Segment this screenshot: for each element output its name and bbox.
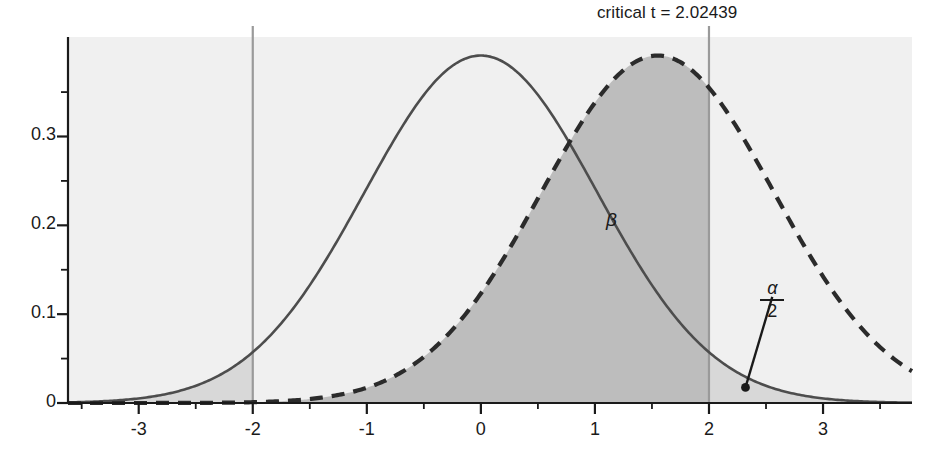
- beta-annotation: β: [606, 209, 617, 231]
- x-tick-label: 0: [461, 419, 501, 440]
- y-tick-label: 0.1: [2, 302, 56, 323]
- x-tick-label: 3: [803, 419, 843, 440]
- y-tick-label: 0: [2, 391, 56, 412]
- x-tick-label: -2: [233, 419, 273, 440]
- x-tick-label: -3: [119, 419, 159, 440]
- y-tick-label: 0.3: [2, 124, 56, 145]
- alpha-numerator: α: [758, 279, 786, 298]
- chart-figure: critical t = 2.02439 β α 2 -3-2-1012300.…: [0, 0, 929, 463]
- critical-value-label: critical t = 2.02439: [597, 3, 737, 23]
- alpha-leader-dot: [741, 383, 750, 392]
- y-tick-label: 0.2: [2, 213, 56, 234]
- distribution-plot: [0, 0, 929, 463]
- x-tick-label: 1: [575, 419, 615, 440]
- x-tick-label: 2: [689, 419, 729, 440]
- alpha-half-annotation: α 2: [758, 279, 786, 321]
- x-tick-label: -1: [347, 419, 387, 440]
- alpha-denominator: 2: [758, 302, 786, 321]
